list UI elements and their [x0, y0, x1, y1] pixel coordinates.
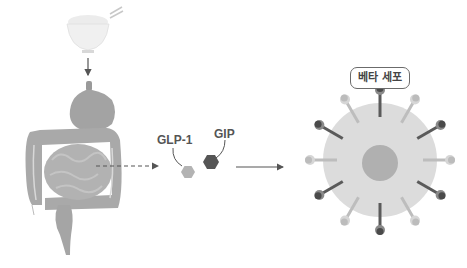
glp1-leader-line — [173, 148, 182, 166]
glp1-label: GLP-1 — [157, 133, 192, 147]
beta-cell-label: 베타 세포 — [350, 67, 410, 89]
rice-bowl-icon — [67, 7, 123, 53]
beta-cell-icon — [305, 85, 455, 235]
gip-label: GIP — [214, 127, 235, 141]
digestive-tract-icon — [26, 81, 122, 255]
nucleus-icon — [362, 145, 398, 181]
gip-leader-line — [216, 140, 225, 158]
glp1-hexagon-icon — [181, 166, 195, 178]
